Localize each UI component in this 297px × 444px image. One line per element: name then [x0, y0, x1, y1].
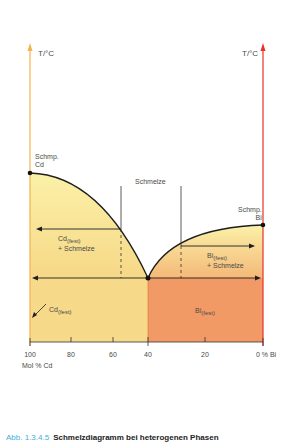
x-tick-80: 80 — [67, 351, 75, 358]
x-tick-0: 0 % Bi — [256, 351, 276, 358]
cd-plus-melt-region — [30, 173, 148, 278]
liquid-region-label: Schmelze — [135, 178, 166, 186]
melting-point-bi — [261, 223, 266, 228]
x-axis-title: Mol % Cd — [22, 362, 52, 370]
caption-text: Schmelzdiagramm bei heterogenen Phasen — [53, 433, 218, 442]
phase-diagram — [0, 0, 297, 444]
eutectic-point — [146, 276, 151, 281]
right-axis-unit: T/°C — [242, 50, 258, 58]
right-axis-arrow-icon — [261, 43, 266, 51]
left-axis-arrow-icon — [28, 43, 33, 51]
bi-plus-melt-label: Bi(fest) + Schmelze — [207, 252, 244, 270]
left-axis-unit: T/°C — [38, 50, 54, 58]
cd-solid-label: Cd(fest) — [49, 306, 72, 316]
x-tick-40: 40 — [144, 351, 152, 358]
x-tick-20: 20 — [201, 351, 209, 358]
x-tick-60: 60 — [109, 351, 117, 358]
caption-number: Abb. 1.3.4.5 — [6, 433, 49, 442]
melt-cd-label: Schmp. Cd — [35, 153, 59, 169]
bi-solid-label: Bi(fest) — [195, 307, 215, 317]
cd-solid-region — [30, 278, 148, 342]
melting-point-cd — [28, 171, 33, 176]
cd-plus-melt-label: Cd(fest) + Schmelze — [58, 235, 95, 253]
melt-bi-label: Schmp. Bi — [238, 206, 262, 222]
x-tick-100: 100 — [24, 351, 36, 358]
figure-caption: Abb. 1.3.4.5Schmelzdiagramm bei heteroge… — [6, 433, 219, 442]
